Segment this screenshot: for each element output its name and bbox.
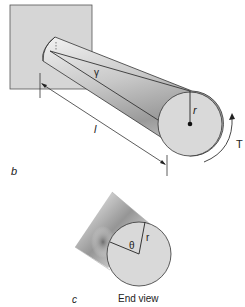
panel-label-b: b	[11, 166, 17, 177]
theta-label: θ	[129, 241, 135, 251]
center-point	[188, 122, 193, 127]
radius-label-b: r	[193, 105, 197, 116]
end-view-caption: End view	[118, 294, 159, 304]
torsion-diagram	[0, 0, 245, 307]
gamma-label: γ	[94, 68, 99, 78]
panel-label-c: c	[72, 295, 77, 305]
torque-label: T	[236, 139, 243, 150]
length-label: l	[94, 124, 96, 135]
radius-label-c: r	[146, 233, 149, 243]
